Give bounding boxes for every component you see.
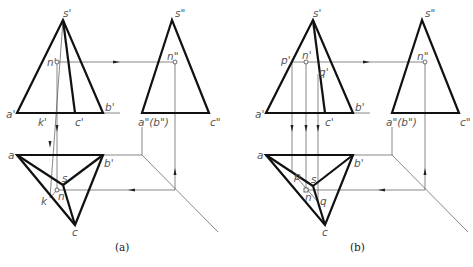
label-ab-double-prime: a"(b") [386, 116, 417, 128]
arrow-right-icon [113, 61, 120, 64]
label-q: q [320, 195, 327, 207]
label-q-prime: q' [319, 66, 329, 78]
label-s: s [311, 173, 317, 185]
label-b: b' [104, 157, 114, 169]
arrow-down-icon [56, 125, 59, 132]
side-view-b [392, 20, 459, 113]
label-k: k [41, 195, 48, 207]
projection-lines-a [49, 20, 219, 232]
label-s-prime: s' [313, 7, 321, 19]
label-p-prime: p' [280, 54, 291, 66]
label-s-double-prime: s" [175, 7, 185, 19]
label-n: n [305, 191, 312, 203]
label-c-double-prime: c" [460, 116, 471, 128]
label-n-prime: n' [302, 49, 312, 61]
arrow-down-icon [49, 141, 52, 148]
arrow-up-icon [174, 168, 177, 175]
figure-a: s' a' b' c' n' k' s" a"(b") c" n" a b' c… [6, 7, 221, 253]
caption-b: (b) [350, 241, 365, 253]
label-c-double-prime: c" [210, 116, 221, 128]
label-b: b' [354, 157, 364, 169]
arrow-down-icon [291, 125, 294, 132]
label-a: a [257, 149, 263, 161]
front-view-a [17, 20, 103, 113]
label-k-prime: k' [38, 116, 47, 128]
side-view-a [142, 20, 209, 113]
label-s-prime: s' [63, 7, 71, 19]
arrow-left-icon [378, 189, 385, 192]
label-n: n [58, 190, 65, 202]
label-p: p [293, 170, 301, 182]
label-b-prime: b' [105, 101, 115, 113]
label-c: c [72, 226, 78, 238]
figure-b: s' a' b' c' n' p' q' s" a"(b") c" n" a b… [255, 7, 471, 253]
arrow-right-icon [363, 61, 370, 64]
label-c-prime: c' [75, 116, 84, 128]
label-a-prime: a' [255, 108, 264, 120]
caption-a: (a) [115, 241, 129, 253]
label-a: a [8, 149, 14, 161]
label-b-prime: b' [355, 101, 365, 113]
label-s-double-prime: s" [425, 7, 435, 19]
front-view-b [266, 20, 353, 113]
label-n-prime: n' [47, 56, 57, 68]
label-s: s [62, 172, 68, 184]
label-a-prime: a' [6, 108, 15, 120]
label-ab-double-prime: a"(b") [138, 116, 169, 128]
orthographic-projection-diagram: s' a' b' c' n' k' s" a"(b") c" n" a b' c… [0, 0, 473, 267]
arrow-down-icon [317, 125, 320, 132]
label-c: c [322, 226, 328, 238]
projection-lines-b [291, 61, 469, 233]
arrow-up-icon [424, 168, 427, 175]
label-n-double-prime: n" [417, 50, 428, 62]
arrow-down-icon [305, 125, 308, 132]
arrow-left-icon [128, 189, 135, 192]
label-n-double-prime: n" [167, 50, 178, 62]
label-c-prime: c' [325, 116, 334, 128]
